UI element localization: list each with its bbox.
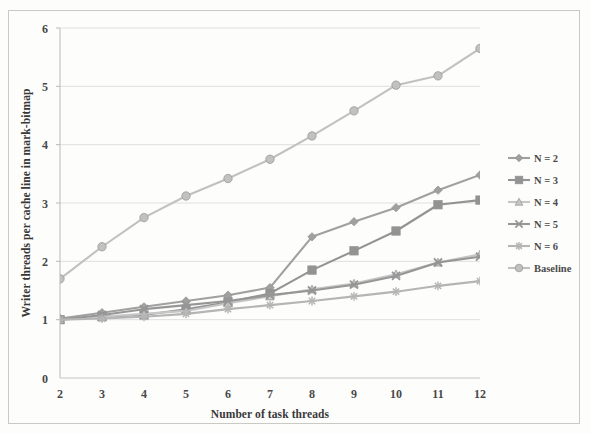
data-point-circle-marker [434, 72, 442, 80]
y-tick-label: 1 [42, 313, 48, 327]
data-point-square-marker [350, 247, 358, 255]
legend-label: N = 3 [534, 175, 558, 186]
y-tick-label: 2 [42, 255, 48, 269]
data-point-asterisk-marker [350, 292, 359, 301]
series-baseline [56, 44, 484, 283]
data-point-circle-marker [266, 155, 274, 163]
legend-item-n-5[interactable]: N = 5 [508, 219, 558, 230]
y-tick-labels: 0123456 [42, 22, 60, 386]
data-point-asterisk-marker [434, 281, 443, 290]
x-tick-label: 6 [225, 387, 231, 401]
x-axis-title: Number of task threads [211, 408, 330, 420]
data-point-diamond-marker [515, 154, 523, 162]
x-tick-labels: 23456789101112 [57, 387, 486, 401]
data-point-diamond-marker [434, 186, 442, 194]
x-tick-label: 9 [351, 387, 357, 401]
y-tick-label: 0 [42, 372, 48, 386]
data-point-asterisk-marker [98, 314, 107, 323]
data-point-asterisk-marker [224, 305, 233, 314]
y-tick-label: 6 [42, 22, 48, 36]
legend-label: N = 4 [534, 197, 559, 208]
data-point-circle-marker [476, 44, 484, 52]
data-point-diamond-marker [350, 217, 358, 225]
data-point-asterisk-marker [140, 312, 149, 321]
data-point-asterisk-marker [308, 297, 317, 306]
legend-item-n-4[interactable]: N = 4 [508, 197, 559, 208]
data-point-asterisk-marker [266, 301, 275, 310]
legend-label: Baseline [534, 263, 572, 274]
legend-label: N = 6 [534, 241, 558, 252]
y-tick-label: 4 [42, 138, 48, 152]
x-tick-label: 8 [309, 387, 315, 401]
data-point-diamond-marker [392, 203, 400, 211]
legend-item-n-6[interactable]: N = 6 [508, 241, 558, 252]
data-point-asterisk-marker [476, 277, 485, 286]
x-tick-label: 10 [390, 387, 402, 401]
data-point-asterisk-marker [392, 287, 401, 296]
data-point-circle-marker [98, 243, 106, 251]
data-point-square-marker [392, 227, 400, 235]
data-point-circle-marker [56, 275, 64, 283]
x-tick-label: 2 [57, 387, 63, 401]
data-point-circle-marker [392, 81, 400, 89]
y-tick-label: 3 [42, 197, 48, 211]
data-point-circle-marker [182, 192, 190, 200]
legend-item-n-3[interactable]: N = 3 [508, 175, 558, 186]
y-axis-title: Writer threads per cache line in mark-bi… [20, 88, 33, 317]
legend-label: N = 5 [534, 219, 558, 230]
legend-item-n-2[interactable]: N = 2 [508, 153, 558, 164]
x-tick-label: 11 [432, 387, 443, 401]
legend-item-baseline[interactable]: Baseline [508, 263, 572, 274]
data-point-square-marker [515, 176, 523, 184]
data-point-circle-marker [308, 132, 316, 140]
line-chart: 0123456 23456789101112 N = 2N = 3N = 4N … [0, 0, 591, 434]
data-point-circle-marker [515, 264, 523, 272]
data-point-square-marker [308, 266, 316, 274]
data-point-asterisk-marker [515, 242, 523, 250]
data-point-asterisk-marker [182, 309, 191, 318]
legend-label: N = 2 [534, 153, 558, 164]
data-point-circle-marker [140, 213, 148, 221]
x-tick-label: 7 [267, 387, 273, 401]
y-tick-label: 5 [42, 80, 48, 94]
data-point-circle-marker [350, 107, 358, 115]
x-tick-label: 3 [99, 387, 105, 401]
data-point-square-marker [434, 201, 442, 209]
figure-container: 0123456 23456789101112 N = 2N = 3N = 4N … [0, 0, 591, 434]
data-point-diamond-marker [476, 171, 484, 179]
data-point-circle-marker [224, 174, 232, 182]
x-tick-label: 12 [474, 387, 486, 401]
x-tick-label: 5 [183, 387, 189, 401]
x-tick-label: 4 [141, 387, 147, 401]
data-point-square-marker [476, 196, 484, 204]
gridlines [60, 28, 480, 320]
chart-legend: N = 2N = 3N = 4N = 5N = 6Baseline [508, 153, 572, 274]
